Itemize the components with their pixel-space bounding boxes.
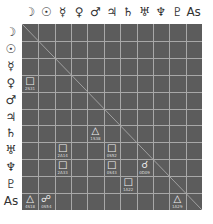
grid-line (38, 24, 39, 210)
trine-icon: △ (22, 194, 38, 204)
aspect-cell-square[interactable]: □1A22 (120, 176, 136, 192)
row-header-saturn-icon: ♄ (2, 125, 20, 141)
aspect-orb: 1A22 (120, 187, 136, 192)
aspect-cell-trine[interactable]: △1A29 (169, 193, 185, 209)
row-header-mercury-icon: ☿ (2, 58, 20, 74)
row-header-moon-icon: ☽ (2, 24, 20, 40)
column-header-pluto-icon: ♇ (169, 4, 185, 20)
trine-icon: △ (169, 194, 185, 204)
grid-line (22, 109, 202, 110)
row-header-uranus-icon: ♅ (2, 142, 20, 158)
square-icon: □ (104, 143, 120, 153)
grid-line (87, 24, 88, 210)
aspect-cell-opposition[interactable]: ☍0S54 (38, 193, 54, 209)
grid-line (22, 92, 202, 93)
column-header-venus-icon: ♀ (71, 4, 87, 20)
aspect-orb: 1S38 (87, 136, 103, 141)
column-header-mercury-icon: ☿ (55, 4, 71, 20)
square-icon: □ (55, 160, 71, 170)
aspect-cell-square[interactable]: □2A14 (55, 142, 71, 158)
conjunction-icon: ☌ (137, 160, 153, 170)
aspect-cell-square[interactable]: □2A33 (55, 159, 71, 175)
aspect-cell-trine[interactable]: △1S38 (87, 125, 103, 141)
grid-line (104, 24, 105, 210)
grid-line (71, 24, 72, 210)
row-header-ascendant: As (2, 193, 20, 209)
grid-line (22, 41, 202, 42)
column-header-ascendant: As (186, 4, 202, 20)
aspect-orb: 0S54 (38, 204, 54, 209)
column-header-mars-icon: ♂ (87, 4, 103, 20)
aspect-orb: 2A14 (55, 153, 71, 158)
aspect-orb: 2A33 (55, 170, 71, 175)
column-header-uranus-icon: ♅ (137, 4, 153, 20)
column-header-jupiter-icon: ♃ (104, 4, 120, 20)
aspect-orb: 2S31 (22, 86, 38, 91)
column-header-neptune-icon: ♆ (153, 4, 169, 20)
aspect-orb: 4S18 (22, 204, 38, 209)
aspect-orb: 0S43 (104, 170, 120, 175)
grid-line (186, 24, 187, 210)
trine-icon: △ (87, 126, 103, 136)
aspect-orb: 0S52 (104, 153, 120, 158)
square-icon: □ (120, 177, 136, 187)
aspect-cell-square[interactable]: □2S31 (22, 75, 38, 91)
row-header-sun-icon: ☉ (2, 41, 20, 57)
row-header-jupiter-icon: ♃ (2, 109, 20, 125)
aspect-cell-square[interactable]: □0S52 (104, 142, 120, 158)
square-icon: □ (104, 160, 120, 170)
opposition-icon: ☍ (38, 194, 54, 204)
column-header-sun-icon: ☉ (38, 4, 54, 20)
grid-line (153, 24, 154, 210)
grid-line (169, 24, 170, 210)
row-header-mars-icon: ♂ (2, 92, 20, 108)
grid-line (22, 58, 202, 59)
aspect-orb: 0D09 (137, 170, 153, 175)
row-header-pluto-icon: ♇ (2, 176, 20, 192)
grid-line (22, 125, 202, 126)
aspect-cell-conjunction[interactable]: ☌0D09 (137, 159, 153, 175)
grid-line (22, 75, 202, 76)
square-icon: □ (22, 76, 38, 86)
aspect-orb: 1A29 (169, 204, 185, 209)
square-icon: □ (55, 143, 71, 153)
grid-line (22, 176, 202, 177)
grid-line (137, 24, 138, 210)
diagonal-line (22, 24, 202, 210)
aspect-grid: □2S31△1S38□2A14□0S52□2A33□0S43☌0D09□1A22… (22, 24, 202, 210)
row-header-neptune-icon: ♆ (2, 159, 20, 175)
column-header-saturn-icon: ♄ (120, 4, 136, 20)
grid-line (55, 24, 56, 210)
column-header-moon-icon: ☽ (22, 4, 38, 20)
aspect-cell-square[interactable]: □0S43 (104, 159, 120, 175)
aspect-cell-trine[interactable]: △4S18 (22, 193, 38, 209)
row-header-venus-icon: ♀ (2, 75, 20, 91)
